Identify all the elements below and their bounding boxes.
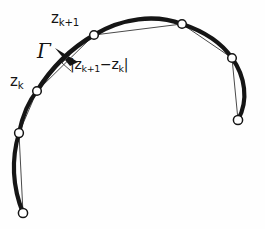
label-z-k-plus-1: zk+1 [51,11,79,26]
point-marker-endpoint-bottom-right [233,115,242,124]
curve-segment [14,133,23,213]
curve-segment [232,58,244,120]
curve-diagram-svg [0,0,265,229]
point-marker-right-bend [228,54,237,63]
label-curve-gamma: Γ [37,41,51,61]
label-chord-length: |zk+1−zk| [70,57,128,71]
curve-segment [94,19,182,35]
point-marker-lower-left [15,129,24,138]
figure-canvas: zk+1 zk Γ |zk+1−zk| [0,0,265,229]
point-marker-zk-plus-1 [90,31,99,40]
chord-segment [182,24,232,58]
inscribed-polygon-chords [19,24,238,213]
label-z-k: zk [10,74,23,89]
point-marker-zk [33,87,42,96]
point-marker-top-right [178,20,187,29]
point-marker-endpoint-bottom-left [18,208,27,217]
